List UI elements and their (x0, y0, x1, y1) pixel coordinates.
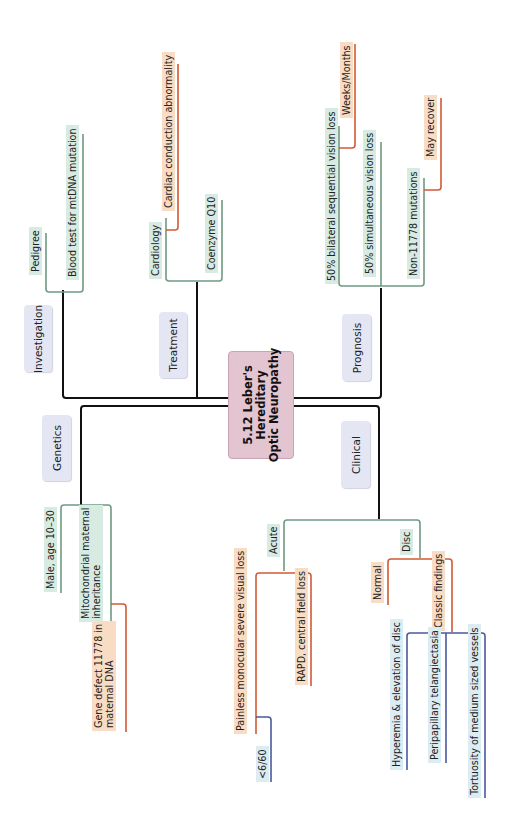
label-disc: Disc (400, 529, 413, 555)
category-clinical: Clinical (341, 421, 370, 488)
label-male-age: Male, age 10–30 (44, 507, 57, 592)
label-bilateral-loss: 50% bilateral sequential vision loss (325, 109, 338, 285)
label-classic-findings: Classic findings (432, 551, 445, 631)
label-simultaneous-loss: 50% simultaneous vision loss (363, 130, 376, 277)
label-peripapillary: Peripapillary telangiectasia (428, 627, 441, 763)
label-va-6-60: <6/60 (256, 746, 269, 782)
label-painless-loss: Painless monocular severe visual loss (234, 548, 247, 734)
label-pedigree: Pedigree (29, 227, 42, 275)
category-genetics: Genetics (42, 415, 71, 481)
label-gene-defect: Gene defect 11778 in maternal DNA (92, 621, 116, 731)
label-non-11778: Non-11778 mutations (407, 168, 420, 279)
label-normal: Normal (371, 562, 384, 603)
category-investigation: Investigation (24, 305, 52, 372)
category-treatment: Treatment (159, 312, 187, 378)
trunk-upper (63, 288, 381, 398)
category-prognosis: Prognosis (342, 314, 371, 381)
label-mito-inheritance: Mitochondrial maternal inheritance (79, 505, 103, 622)
label-tortuosity: Tortuosity of medium sized vessels (468, 624, 481, 798)
label-acute: Acute (267, 524, 280, 557)
label-coenzyme-q10: Coenzyme Q10 (205, 194, 218, 273)
label-cardiology: Cardiology (149, 222, 162, 279)
label-hyperemia: Hyperemia & elevation of disc (390, 619, 403, 770)
label-blood-test: Blood test for mtDNA mutation (66, 125, 79, 280)
label-rapd: RAPD, central field loss (295, 568, 308, 685)
label-cardiac-conduction-text: Cardiac conduction abnormality (162, 52, 175, 211)
label-weeks-months: Weeks/Months (340, 42, 353, 118)
mind-map: 5.12 Leber's Hereditary Optic Neuropathy… (0, 0, 513, 834)
label-may-recover: May recover (424, 95, 437, 160)
central-topic-text: 5.12 Leber's Hereditary Optic Neuropathy (242, 348, 281, 463)
central-topic: 5.12 Leber's Hereditary Optic Neuropathy (228, 351, 294, 459)
